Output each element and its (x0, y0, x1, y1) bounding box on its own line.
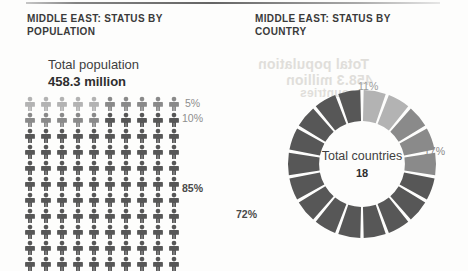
population-label-dark: 85% (182, 182, 203, 194)
person-icon (166, 112, 182, 128)
person-icon (102, 96, 118, 112)
person-icon (38, 96, 54, 112)
person-icon (70, 112, 86, 128)
person-icon (22, 256, 38, 271)
person-icon (134, 128, 150, 144)
person-icon (150, 144, 166, 160)
population-label-light: 5% (185, 97, 200, 109)
country-label-dark: 72% (236, 208, 257, 220)
person-icon (166, 224, 182, 240)
person-icon (38, 192, 54, 208)
person-icon (150, 176, 166, 192)
person-icon (22, 240, 38, 256)
person-icon (150, 192, 166, 208)
person-icon (150, 224, 166, 240)
person-icon (86, 176, 102, 192)
person-icon (134, 256, 150, 271)
person-icon (54, 112, 70, 128)
person-icon (38, 256, 54, 271)
country-label-light: 11% (358, 80, 378, 92)
person-icon (118, 144, 134, 160)
person-icon (134, 144, 150, 160)
person-icon (86, 240, 102, 256)
donut-ring-svg (286, 88, 438, 240)
person-icon (118, 176, 134, 192)
person-icon (150, 256, 166, 271)
person-icon (86, 192, 102, 208)
person-icon (166, 240, 182, 256)
person-icon (70, 160, 86, 176)
person-icon (102, 128, 118, 144)
donut-segment-dark (288, 153, 320, 175)
person-icon (102, 256, 118, 271)
person-icon (70, 176, 86, 192)
person-icon (166, 208, 182, 224)
person-icon (134, 240, 150, 256)
person-icon (86, 112, 102, 128)
person-icon (118, 112, 134, 128)
person-icon (70, 224, 86, 240)
person-icon (166, 160, 182, 176)
person-icon (118, 96, 134, 112)
person-icon (70, 144, 86, 160)
person-icon (54, 224, 70, 240)
person-icon (102, 240, 118, 256)
person-icon (86, 208, 102, 224)
population-chart-title: MIDDLE EAST: STATUS BY POPULATION (27, 12, 207, 38)
person-icon (38, 144, 54, 160)
person-icon (166, 96, 182, 112)
person-icon (102, 192, 118, 208)
person-icon (134, 96, 150, 112)
total-population-label: Total population (48, 57, 139, 73)
person-icon (118, 224, 134, 240)
person-icon (134, 160, 150, 176)
person-icon (86, 128, 102, 144)
person-icon (22, 192, 38, 208)
country-chart-panel: MIDDLE EAST: STATUS BY COUNTRY Total cou… (234, 0, 468, 271)
person-icon (22, 176, 38, 192)
person-icon (54, 176, 70, 192)
person-icon (118, 240, 134, 256)
person-icon (54, 144, 70, 160)
country-donut-chart: Total countries 18 (286, 88, 438, 240)
person-icon (54, 256, 70, 271)
person-icon (54, 160, 70, 176)
person-icon (102, 224, 118, 240)
person-icon (150, 128, 166, 144)
person-icon (150, 240, 166, 256)
person-icon (134, 224, 150, 240)
person-icon (54, 96, 70, 112)
person-icon (118, 208, 134, 224)
person-icon (54, 240, 70, 256)
person-icon (38, 160, 54, 176)
country-chart-title: MIDDLE EAST: STATUS BY COUNTRY (255, 12, 440, 38)
total-population-block: Total population 458.3 million (48, 57, 139, 90)
person-icon (102, 112, 118, 128)
person-icon (150, 208, 166, 224)
person-icon (54, 192, 70, 208)
person-icon (70, 208, 86, 224)
population-chart-panel: MIDDLE EAST: STATUS BY POPULATION Total … (0, 0, 234, 271)
person-icon (86, 224, 102, 240)
person-icon (70, 240, 86, 256)
person-icon (134, 192, 150, 208)
person-icon (102, 176, 118, 192)
person-icon (150, 160, 166, 176)
person-icon (70, 256, 86, 271)
person-icon (54, 128, 70, 144)
person-icon (38, 208, 54, 224)
person-icon (22, 208, 38, 224)
person-icon (166, 176, 182, 192)
person-icon (86, 96, 102, 112)
person-icon (22, 160, 38, 176)
person-icon (118, 160, 134, 176)
population-pictogram-grid (22, 96, 182, 271)
person-icon (118, 128, 134, 144)
person-icon (102, 160, 118, 176)
person-icon (22, 128, 38, 144)
person-icon (38, 176, 54, 192)
person-icon (22, 224, 38, 240)
country-label-medium: 17% (424, 145, 445, 157)
population-label-medium: 10% (182, 112, 203, 124)
person-icon (134, 112, 150, 128)
